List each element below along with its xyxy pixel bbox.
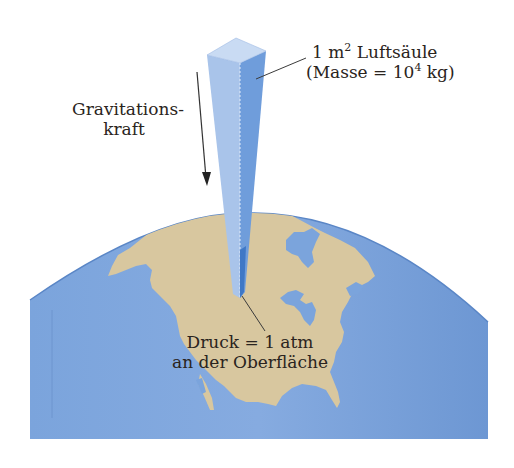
column-label-line2: (Masse = 104 kg) bbox=[306, 62, 455, 82]
column-label: 1 m2 Luftsäule (Masse = 104 kg) bbox=[312, 42, 455, 82]
column-label-line1: 1 m2 Luftsäule bbox=[312, 42, 455, 62]
pressure-label: Druck = 1 atm an der Oberfläche bbox=[150, 332, 350, 372]
globe bbox=[30, 212, 488, 439]
arrow-head-icon bbox=[202, 172, 211, 186]
gravity-label: Gravitations- kraft bbox=[60, 99, 196, 139]
pressure-label-line1: Druck = 1 atm bbox=[150, 332, 350, 352]
gravity-label-line1: Gravitations- bbox=[60, 99, 196, 119]
gravity-arrow bbox=[197, 72, 211, 186]
pressure-label-line2: an der Oberfläche bbox=[150, 352, 350, 372]
gravity-label-line2: kraft bbox=[52, 119, 196, 139]
